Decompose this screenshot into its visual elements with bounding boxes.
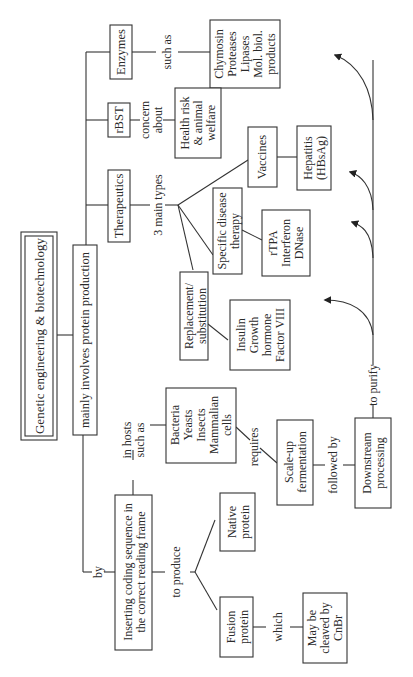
nodes-cleaved-0-text: May be [305,610,319,646]
nodes-hosts-4-text: cells [220,414,234,436]
label-concern-about: concern about [138,101,165,139]
label-followed-by: followed by [326,436,340,494]
nodes-enzyme_products-0-text: Chymosin [212,29,226,78]
concept-map: Genetic engineering & biotechnology main… [0,0,413,677]
label-which: which [271,612,285,641]
nodes-hosts-2-text: Insects [194,408,208,442]
label-requires: requires [247,427,261,466]
node-insulin: Insulin Growth hormone Factor VIII [230,300,290,370]
nodes-health-1-text: & animal [191,100,205,146]
title-box: Genetic engineering & biotechnology [21,232,57,440]
nodes-health-0-text: Health risk [178,97,192,150]
label-such-as: such as [160,34,174,69]
node-specific-disease: Specific disease therapy [213,188,242,274]
nodes-hosts-3-text: Mammalian [207,396,221,454]
nodes-cleaved-2-text: CnBr [331,615,345,641]
node-therapeutics: Therapeutics [108,170,130,242]
nodes-hosts-0-text: Bacteria [168,404,182,445]
nodes-vaccines-text: Vaccines [255,135,269,180]
nodes-specific_examples-2-text: DNase [292,227,306,260]
nodes-replacement-0-text: Replacement/ [182,282,196,349]
nodes-downstream-1-text: processing [373,437,387,488]
nodes-cleaved-1-text: cleaved by [318,602,332,654]
nodes-health-2-text: welfare [204,105,218,141]
node-inserting: Inserting coding sequence in the correct… [115,495,152,650]
nodes-enzyme_products-2-text: Lipases [238,35,252,72]
nodes-scaleup-1-text: fermentation [295,431,309,492]
nodes-specific-0-text: Specific disease [215,193,229,270]
nodes-specific_examples-1-text: Interferon [279,219,293,267]
nodes-replacement_examples-3-text: Factor VIII [273,308,287,362]
purify-arrows [325,55,373,335]
nodes-specific_examples-0-text: rTPA [266,230,280,256]
nodes-specific-1-text: therapy [228,213,242,249]
edge_labels-concern_about-0-text: concern [138,101,152,139]
nodes-downstream-0-text: Downstream [360,432,374,494]
nodes-fusion-1-text: protein [237,610,251,644]
nodes-scaleup-0-text: Scale-up [282,441,296,483]
node-hosts: Bacteria Yeasts Insects Mammalian cells [166,388,236,463]
node-replacement: Replacement/ substitution [180,272,209,360]
nodes-hosts-1-text: Yeasts [181,409,195,440]
nodes-enzyme_products-1-text: Proteases [225,31,239,77]
node-hepatitis: Hepatitis (HBsAg) [297,126,331,190]
nodes-replacement_examples-0-text: Insulin [234,318,248,351]
nodes-inserting-1-text: the correct reading frame [134,512,148,633]
nodes-therapeutics-text: Therapeutics [112,174,126,239]
node-native: Native protein [220,493,255,551]
node-enzyme-products: Chymosin Proteases Lipases Mol. biol. pr… [210,20,280,88]
nodes-vaccine_examples-1-text: (HBsAg) [314,136,328,180]
node-vaccines: Vaccines [248,127,277,187]
node-health-risk: Health risk & animal welfare [175,88,221,158]
node-enzymes: Enzymes [110,25,132,79]
nodes-fusion-0-text: Fusion [224,611,238,644]
nodes-native-1-text: protein [238,505,252,539]
label-to-produce: to produce [169,547,183,598]
nodes-replacement_examples-1-text: Growth [247,317,261,354]
nodes-replacement-1-text: substitution [195,288,209,344]
node-cleaved: May be cleaved by CnBr [303,593,347,663]
node-rbst: rBST [108,103,130,137]
edge_labels-concern_about-1-text: about [151,106,165,133]
nodes-enzymes-text: Enzymes [114,29,128,75]
nodes-replacement_examples-2-text: hormone [260,314,274,357]
label-3-main-types: 3 main types [151,174,165,236]
title-text: Genetic engineering & biotechnology [32,237,47,434]
node-fusion: Fusion protein [220,597,253,657]
edge_labels-in_hosts-1-text: such as [133,422,147,457]
edge_labels-in_hosts-0-text: in hosts [120,421,134,458]
nodes-native-0-text: Native [225,506,239,538]
nodes-enzyme_products-4-text: products [264,33,278,75]
node-scaleup: Scale-up fermentation [277,420,313,505]
node-main: mainly involves protein production [73,245,97,435]
label-to-purify: to purify [366,364,380,406]
node-downstream: Downstream processing [355,418,391,508]
nodes-main-text: mainly involves protein production [78,251,92,428]
nodes-enzyme_products-3-text: Mol. biol. [251,30,265,78]
nodes-inserting-0-text: Inserting coding sequence in [121,503,135,641]
nodes-rbst-text: rBST [112,106,126,133]
node-rtpa: rTPA Interferon DNase [262,210,310,276]
label-in-hosts: in hosts such as [120,421,147,458]
nodes-vaccine_examples-0-text: Hepatitis [301,136,315,180]
label-by: by [91,566,105,578]
